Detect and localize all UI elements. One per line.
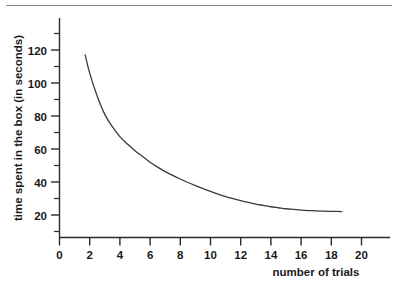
y-tick-label: 80 [34,111,47,123]
x-tick-label: 10 [204,249,217,261]
x-axis-major-ticks [60,238,362,246]
x-tick-label: 18 [325,249,338,261]
x-tick-label: 12 [234,249,247,261]
x-tick-label: 4 [117,249,124,261]
y-tick-label: 20 [34,210,47,222]
y-tick-label: 40 [34,177,47,189]
x-tick-label: 8 [177,249,184,261]
y-axis-minor-ticks [54,34,60,232]
figure-container: 20 40 60 80 100 120 0 2 4 6 8 10 12 14 1… [0,0,396,284]
y-axis-tick-labels: 20 40 60 80 100 120 [28,45,47,222]
x-tick-label: 14 [265,249,278,261]
y-tick-label: 60 [34,144,47,156]
x-axis-title: number of trials [273,266,360,278]
data-series-line [85,55,342,212]
x-axis-tick-labels: 0 2 4 6 8 10 12 14 16 18 20 [56,249,368,261]
x-tick-label: 6 [147,249,153,261]
x-tick-label: 2 [86,249,92,261]
x-tick-label: 0 [56,249,62,261]
x-tick-label: 20 [355,249,368,261]
y-tick-label: 100 [28,78,47,90]
chart-plot: 20 40 60 80 100 120 0 2 4 6 8 10 12 14 1… [0,0,396,284]
y-axis-title: time spent in the box (in seconds) [12,35,24,221]
y-tick-label: 120 [28,45,47,57]
x-tick-label: 16 [295,249,308,261]
